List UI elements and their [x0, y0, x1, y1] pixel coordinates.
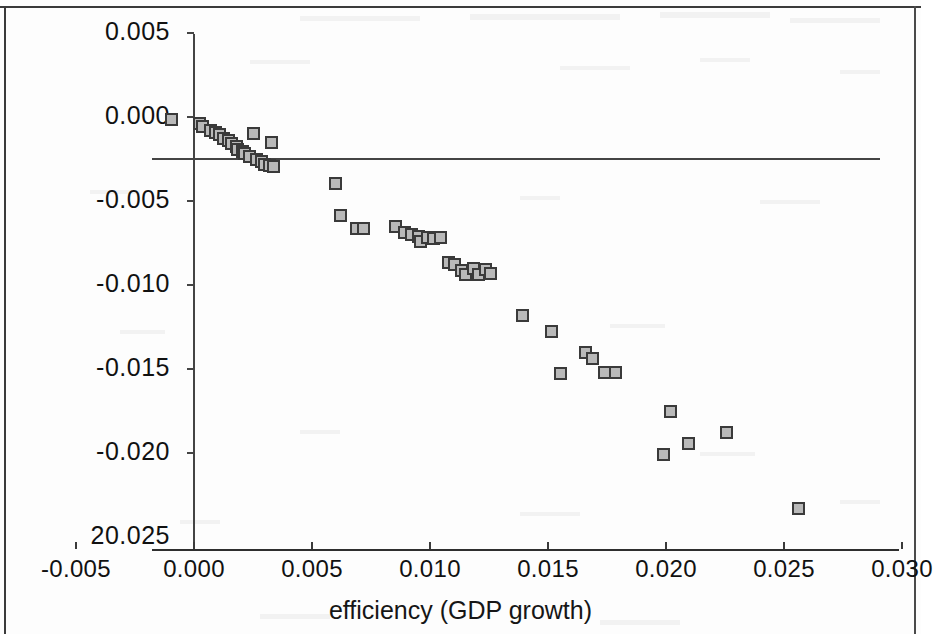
- scan-speckle: [520, 512, 580, 516]
- scan-speckle: [700, 452, 755, 456]
- data-point: [247, 127, 260, 140]
- scan-speckle: [610, 324, 665, 328]
- x-axis-tick-label: -0.005: [16, 555, 136, 583]
- data-point: [484, 267, 497, 280]
- data-point: [664, 405, 677, 418]
- x-axis-tick: [547, 542, 549, 549]
- data-point: [434, 231, 447, 244]
- y-axis-tick-label: 0.005: [105, 17, 170, 46]
- x-axis-title: efficiency (GDP growth): [0, 596, 921, 625]
- x-axis-tick-label: 0.000: [134, 555, 254, 583]
- x-axis-tick: [311, 542, 313, 549]
- scan-speckle: [120, 330, 165, 334]
- x-axis-tick: [901, 542, 903, 549]
- scan-speckle: [760, 200, 820, 204]
- x-axis-tick-label: 0.030: [842, 555, 937, 583]
- data-point: [265, 136, 278, 149]
- x-axis-baseline: [152, 549, 899, 551]
- scan-speckle: [520, 196, 560, 200]
- scan-speckle: [560, 66, 630, 70]
- x-axis-tick: [429, 542, 431, 549]
- scan-speckle: [700, 58, 750, 62]
- scan-speckle: [840, 500, 880, 504]
- y-axis-tick-label: 20.025: [91, 521, 170, 550]
- data-point: [267, 160, 280, 173]
- y-axis-tick-label: 0.000: [105, 101, 170, 130]
- data-point: [586, 352, 599, 365]
- x-axis-tick: [193, 542, 195, 549]
- data-point: [792, 502, 805, 515]
- data-point: [720, 426, 733, 439]
- y-axis-tick: [187, 200, 194, 202]
- y-axis-tick-label: -0.010: [96, 269, 170, 298]
- scan-speckle: [470, 14, 620, 20]
- scan-speckle: [790, 18, 880, 23]
- scan-speckle: [660, 12, 770, 18]
- data-point: [165, 113, 178, 126]
- x-axis-tick-label: 0.010: [370, 555, 490, 583]
- data-point: [357, 222, 370, 235]
- data-point: [334, 209, 347, 222]
- scan-speckle: [250, 60, 310, 64]
- data-point: [609, 366, 622, 379]
- scan-speckle: [180, 520, 220, 524]
- data-point: [329, 177, 342, 190]
- scan-speckle: [300, 16, 420, 21]
- data-point: [682, 437, 695, 450]
- y-axis-tick: [187, 284, 194, 286]
- y-axis-tick-label: -0.020: [96, 437, 170, 466]
- scan-speckle: [300, 430, 340, 434]
- data-point: [554, 367, 567, 380]
- y-axis-tick: [187, 32, 194, 34]
- y-axis-tick: [187, 452, 194, 454]
- y-axis-tick: [187, 368, 194, 370]
- scan-speckle: [840, 70, 880, 74]
- x-axis-tick-label: 0.020: [606, 555, 726, 583]
- y-axis-line: [193, 34, 195, 549]
- x-axis-tick-label: 0.025: [724, 555, 844, 583]
- x-axis-tick-label: 0.005: [252, 555, 372, 583]
- y-axis-tick-label: -0.005: [96, 185, 170, 214]
- y-axis-tick-label: -0.015: [96, 353, 170, 382]
- data-point: [516, 309, 529, 322]
- x-axis-tick: [783, 542, 785, 549]
- x-axis-tick: [75, 542, 77, 549]
- data-point: [657, 448, 670, 461]
- x-axis-tick-label: 0.015: [488, 555, 608, 583]
- x-axis-tick: [665, 542, 667, 549]
- data-point: [545, 325, 558, 338]
